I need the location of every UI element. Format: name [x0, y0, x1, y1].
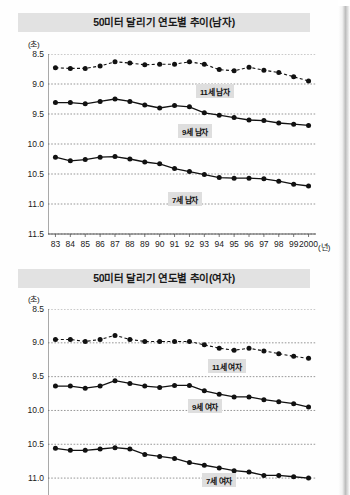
data-point — [127, 61, 132, 66]
data-point — [217, 113, 222, 118]
data-point — [172, 339, 177, 344]
x-tick-label: 92 — [181, 239, 197, 249]
data-point — [142, 62, 147, 67]
data-point — [187, 59, 192, 64]
series-label-2: 9세 여자 — [188, 399, 222, 413]
data-point — [217, 67, 222, 72]
data-point — [83, 448, 88, 453]
chart-male-x-unit: (년) — [318, 241, 330, 252]
series-label-1: 11세 여자 — [208, 359, 246, 373]
data-point — [83, 101, 88, 106]
data-point — [142, 103, 147, 108]
data-point — [187, 383, 192, 388]
chart-svg — [48, 54, 316, 242]
data-point — [202, 463, 207, 468]
data-point — [53, 337, 58, 342]
series-line-1 — [55, 62, 308, 81]
x-tick-label: 83 — [47, 239, 63, 249]
data-point — [142, 160, 147, 165]
data-point — [276, 351, 281, 356]
chart-female-y-unit: (초) — [28, 293, 39, 304]
data-point — [53, 384, 58, 389]
y-tick-label: 8.5 — [16, 304, 44, 314]
data-point — [232, 115, 237, 120]
data-point — [127, 447, 132, 452]
data-point — [157, 454, 162, 459]
series-label-2: 9세 남자 — [178, 124, 212, 138]
x-tick-label: 84 — [62, 239, 78, 249]
data-point — [202, 62, 207, 67]
data-point — [53, 155, 58, 160]
data-point — [276, 473, 281, 478]
chart-male-title: 50미터 달리기 연도별 추이(남자) — [18, 13, 310, 32]
x-tick-label: 95 — [226, 239, 242, 249]
page-edge-corner — [338, 0, 350, 6]
data-point — [291, 182, 296, 187]
x-tick-label: 91 — [167, 239, 183, 249]
data-point — [172, 166, 177, 171]
chart-male-y-unit: (초) — [28, 38, 39, 49]
data-point — [187, 169, 192, 174]
x-tick-label: 97 — [256, 239, 272, 249]
data-point — [261, 68, 266, 73]
data-point — [276, 121, 281, 126]
x-tick-label: 88 — [122, 239, 138, 249]
data-point — [217, 346, 222, 351]
data-point — [53, 100, 58, 105]
series-line-3 — [55, 157, 308, 186]
data-point — [247, 346, 252, 351]
data-point — [172, 62, 177, 67]
data-point — [306, 79, 311, 84]
data-point — [306, 356, 311, 361]
data-point — [68, 66, 73, 71]
data-point — [68, 337, 73, 342]
data-point — [83, 339, 88, 344]
data-point — [68, 384, 73, 389]
chart-male-plot-area — [48, 54, 316, 234]
data-point — [291, 122, 296, 127]
x-tick-label: 89 — [137, 239, 153, 249]
data-point — [98, 64, 103, 69]
series-label-3: 7세 남자 — [168, 192, 202, 206]
data-point — [202, 172, 207, 177]
chart-female: 50미터 달리기 연도별 추이(여자) (초) 8.59.09.510.010.… — [0, 260, 338, 495]
data-point — [202, 110, 207, 115]
y-tick-label: 8.5 — [16, 49, 44, 59]
x-tick-label: 90 — [152, 239, 168, 249]
data-point — [306, 405, 311, 410]
data-point — [217, 465, 222, 470]
data-point — [306, 476, 311, 481]
x-tick-label: 96 — [241, 239, 257, 249]
data-point — [247, 118, 252, 123]
series-label-1: 11세 남자 — [196, 84, 234, 98]
data-point — [291, 74, 296, 79]
data-point — [172, 456, 177, 461]
data-point — [83, 386, 88, 391]
data-point — [68, 448, 73, 453]
data-point — [291, 401, 296, 406]
data-point — [306, 184, 311, 189]
data-point — [83, 157, 88, 162]
data-point — [127, 337, 132, 342]
data-point — [291, 354, 296, 359]
data-point — [68, 158, 73, 163]
y-tick-label: 9.0 — [16, 337, 44, 347]
x-tick-label: 94 — [211, 239, 227, 249]
data-point — [172, 103, 177, 108]
data-point — [157, 106, 162, 111]
data-point — [127, 99, 132, 104]
y-tick-label: 11.5 — [16, 229, 44, 239]
data-point — [187, 460, 192, 465]
data-point — [157, 62, 162, 67]
y-tick-label: 9.5 — [16, 109, 44, 119]
chart-svg — [48, 309, 316, 495]
data-point — [261, 473, 266, 478]
x-tick-label: 85 — [77, 239, 93, 249]
data-point — [98, 447, 103, 452]
data-point — [142, 339, 147, 344]
series-line-1 — [55, 335, 308, 358]
data-point — [202, 388, 207, 393]
series-line-2 — [55, 99, 308, 125]
data-point — [113, 154, 118, 159]
data-point — [306, 123, 311, 128]
